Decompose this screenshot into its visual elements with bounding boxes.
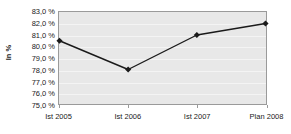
y-axis-tick-label: 83,0 % [32, 7, 55, 16]
y-axis-tick-label: 78,0 % [32, 65, 55, 74]
y-axis-tick-label: 80,0 % [32, 42, 55, 51]
x-axis-tick-label: Plan 2008 [250, 112, 284, 121]
y-axis-tick-labels: 83,0 %82,0 %81,0 %80,0 %79,0 %78,0 %77,0… [16, 11, 57, 105]
y-axis-tick-label: 75,0 % [32, 101, 55, 110]
y-axis-tick-label: 81,0 % [32, 30, 55, 39]
x-axis-tick-labels: Ist 2005Ist 2006Ist 2007Plan 2008 [0, 112, 291, 126]
data-point-marker [194, 32, 200, 38]
x-axis-tick-label: Ist 2006 [114, 112, 141, 121]
series-line-in-percent [59, 12, 266, 104]
x-axis-ticks [58, 105, 267, 109]
x-axis-tick-label: Ist 2005 [45, 112, 72, 121]
data-point-marker [262, 20, 268, 26]
y-axis-title-text: In % [4, 45, 13, 60]
y-axis-tick-label: 76,0 % [32, 89, 55, 98]
data-point-marker [56, 38, 62, 44]
plot-area [58, 11, 267, 105]
series-polyline [59, 24, 265, 70]
x-axis-tick [267, 105, 268, 108]
plot-inner [59, 12, 266, 104]
x-axis-tick [128, 105, 129, 108]
y-axis-tick-label: 77,0 % [32, 77, 55, 86]
y-axis-tick-label: 82,0 % [32, 18, 55, 27]
x-axis-tick [59, 105, 60, 108]
y-axis-tick-label: 79,0 % [32, 54, 55, 63]
x-axis-tick [197, 105, 198, 108]
data-point-marker [125, 66, 131, 72]
x-axis-tick-label: Ist 2007 [184, 112, 211, 121]
line-chart: In % 83,0 %82,0 %81,0 %80,0 %79,0 %78,0 … [0, 0, 291, 134]
